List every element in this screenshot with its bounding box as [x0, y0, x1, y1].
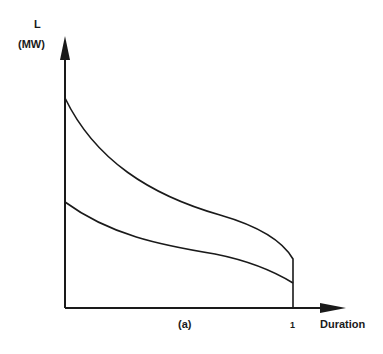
- y-axis-label: L: [34, 18, 41, 30]
- y-axis-unit: (MW): [18, 38, 45, 50]
- upper-curve: [65, 98, 293, 308]
- x-tick-label: 1: [290, 320, 295, 330]
- load-duration-chart: [0, 0, 383, 354]
- caption: (a): [178, 318, 191, 330]
- y-axis-arrow-icon: [60, 36, 70, 60]
- lower-curve: [65, 202, 293, 283]
- x-axis-label: Duration: [320, 318, 365, 330]
- x-axis-arrow-icon: [320, 303, 346, 313]
